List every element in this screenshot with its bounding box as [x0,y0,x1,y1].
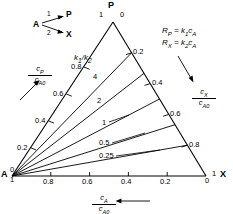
vertex-x-left-value: 0 [205,177,209,185]
left-axis-numerator: cP [28,65,52,75]
ratio-legend-label: k1/k2 [74,54,92,64]
fan-label-2: 2 [97,97,101,105]
bottom-tick-label-3: 0.2 [160,178,170,186]
bottom-axis-label: cA cA0 [92,194,116,214]
bottom-tick-label-2: 0.4 [121,178,131,186]
right-tick-label-0: 0.2 [133,48,143,56]
rate-eq-x-rhs: = k [172,38,185,47]
rate-eq-p-rhs: = k [172,26,185,35]
vertex-label-x: X [220,170,226,179]
bottom-edge-ticks [51,172,167,176]
fan-label-0.25: 0.25 [99,152,114,160]
left-axis-label: cP cA0 [28,65,52,87]
fan-label-0.5: 0.5 [99,139,109,147]
vertex-a-top-value: 0 [10,166,14,174]
scheme-product-p: P [66,10,72,19]
right-tick-label-1: 0.4 [152,79,162,87]
fan-line-0.25 [12,145,187,176]
vertex-label-p: P [108,1,114,10]
fan-label-1: 1 [102,119,106,127]
rate-eq-p-tail-sub: A [192,31,196,37]
right-tick-label-2: 0.6 [170,110,180,118]
left-axis-denominator: cA0 [28,75,52,86]
fan-line-1 [12,99,160,176]
fan-label-4: 4 [93,73,97,81]
right-axis-numerator: cX [192,88,216,98]
scheme-path-1-label: 1 [47,11,51,18]
ratio-denominator-sub: 2 [88,57,92,64]
right-axis-arrow [178,56,193,82]
bottom-axis-denominator: cA0 [92,204,116,214]
right-tick-label-3: 0.8 [189,141,199,149]
right-axis-denominator: cA0 [192,98,216,109]
right-edge-ticks [126,53,187,147]
vertex-p-right-value: 0 [120,11,124,19]
bottom-tick-label-1: 0.6 [82,178,92,186]
scheme-reactant-a: A [33,20,39,29]
vertex-x-right-value: 1 [212,170,216,178]
bottom-axis-numerator: cA [92,194,116,204]
vertex-label-a: A [1,170,8,179]
reaction-scheme-arrows [42,15,64,34]
left-tick-label-1: 0.4 [35,117,45,125]
rate-equation-p: RP = k1cA [162,27,196,37]
rate-equation-x: RX = k2cA [162,39,196,49]
right-axis-label: cX cA0 [192,88,216,110]
figure-root: P 1 0 A 0 1 X 0 1 A 1 P 2 X RP = k1cA RX… [0,0,233,214]
scheme-product-x: X [66,30,72,39]
bottom-axis-arrow [116,199,150,204]
scheme-path-2-label: 2 [47,30,51,37]
left-tick-label-0: 0.2 [17,144,27,152]
bottom-tick-label-0: 0.8 [43,178,53,186]
vertex-p-left-value: 1 [99,11,103,19]
left-tick-label-2: 0.6 [53,90,63,98]
vertex-a-bottom-value: 1 [10,176,14,184]
rate-eq-x-tail-sub: A [192,43,196,49]
